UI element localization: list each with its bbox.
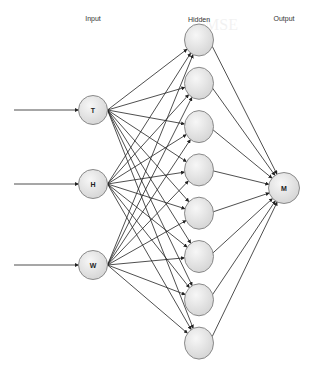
input-node-h: H: [79, 170, 108, 199]
edge-h1-m: [212, 46, 277, 174]
hidden-node-6: [185, 241, 214, 273]
edge-h8-m: [212, 202, 277, 337]
edge-t-h6: [108, 110, 191, 243]
hidden-node-7: [185, 284, 214, 316]
edge-h4-m: [212, 171, 269, 185]
hidden-node-2: [185, 67, 214, 99]
input-node-w-label: W: [90, 262, 97, 269]
edge-h-h3: [108, 135, 187, 184]
edge-t-h1: [108, 49, 188, 110]
neural-network-diagram: Input Hidden Output THWM: [0, 0, 314, 371]
edge-h3-m: [212, 129, 272, 178]
output-node-m-label: M: [281, 185, 287, 192]
edge-w-h7: [108, 265, 186, 295]
input-layer-label: Input: [85, 15, 101, 23]
edge-h-h7: [108, 184, 190, 288]
input-node-h-label: H: [90, 181, 95, 188]
hidden-node-1: [185, 24, 214, 56]
edge-t-h2: [108, 87, 185, 110]
input-node-w: W: [79, 251, 108, 280]
edge-t-h8: [108, 110, 194, 328]
edge-w-h2: [108, 97, 192, 265]
hidden-node-5: [185, 197, 214, 229]
edge-w-h1: [108, 55, 194, 265]
input-node-t-label: T: [91, 107, 96, 114]
input-node-t: T: [79, 96, 108, 125]
hidden-node-4: [185, 154, 214, 186]
hidden-node-3: [185, 111, 214, 143]
edge-w-h8: [108, 265, 188, 333]
edge-h2-m: [212, 87, 275, 175]
hidden-layer-label: Hidden: [188, 16, 210, 23]
edge-h6-m: [212, 198, 273, 253]
edges: [14, 46, 277, 337]
output-node-m: M: [269, 173, 300, 204]
edge-h7-m: [212, 201, 275, 295]
output-layer-label: Output: [273, 15, 294, 23]
edge-w-h5: [108, 221, 187, 265]
edge-h-h2: [108, 95, 189, 184]
edge-h-h4: [108, 172, 185, 184]
hidden-node-8: [185, 327, 214, 359]
